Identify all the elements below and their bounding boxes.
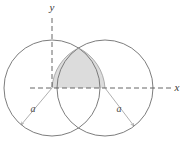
geometry-figure: y x a a — [0, 0, 185, 148]
x-axis-label: x — [174, 81, 180, 93]
right-radius-label: a — [117, 103, 122, 114]
y-axis-label: y — [49, 1, 55, 13]
left-radius-label: a — [31, 103, 36, 114]
shaded-lens-region — [52, 48, 105, 88]
figure-canvas: y x a a — [0, 0, 185, 148]
left-radius-line — [21, 88, 52, 125]
